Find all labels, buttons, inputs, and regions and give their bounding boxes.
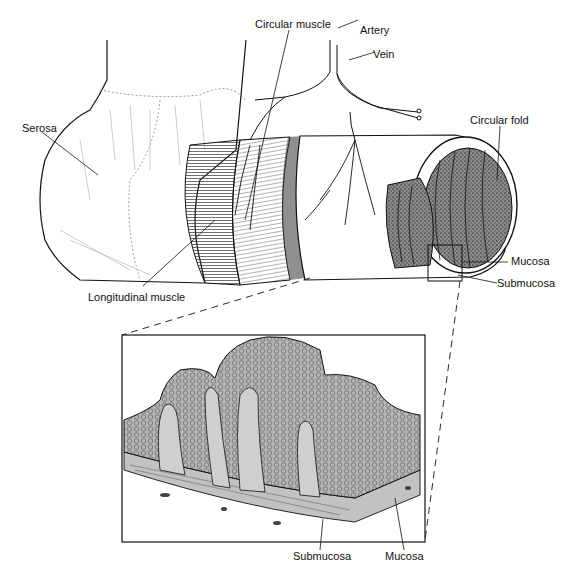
diagram-artwork: [0, 0, 573, 578]
label-circular-fold: Circular fold: [470, 114, 529, 126]
label-mucosa: Mucosa: [511, 255, 550, 267]
label-artery: Artery: [360, 24, 389, 36]
inset-label-mucosa: Mucosa: [385, 550, 424, 562]
circular-muscle-layer: [233, 136, 306, 285]
label-submucosa: Submucosa: [497, 277, 555, 289]
inset-label-submucosa: Submucosa: [293, 550, 351, 562]
label-serosa: Serosa: [22, 122, 57, 134]
label-circular-muscle: Circular muscle: [255, 18, 331, 30]
label-longitudinal-muscle: Longitudinal muscle: [88, 291, 185, 303]
blood-vessels: [250, 40, 421, 140]
intestine-diagram: Serosa Circular muscle Artery Vein Circu…: [0, 0, 573, 578]
label-vein: Vein: [373, 48, 394, 60]
inset-magnification: [122, 335, 425, 550]
